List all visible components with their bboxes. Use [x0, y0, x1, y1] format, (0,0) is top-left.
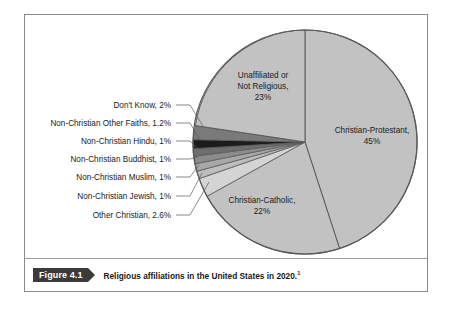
badge-arrow-icon [88, 268, 95, 282]
figure-caption-text: Religious affiliations in the United Sta… [104, 270, 301, 281]
figure-container: Unaffiliated or Not Religious, 23% Chris… [0, 0, 449, 316]
figure-frame-border [24, 14, 428, 292]
caption-main-text: Religious affiliations in the United Sta… [104, 270, 298, 280]
figure-caption-bar: Figure 4.1 Religious affiliations in the… [25, 258, 427, 291]
figure-number-label: Figure 4.1 [33, 268, 88, 282]
figure-number-badge: Figure 4.1 [33, 268, 95, 282]
caption-footnote-marker: 1 [297, 270, 300, 276]
